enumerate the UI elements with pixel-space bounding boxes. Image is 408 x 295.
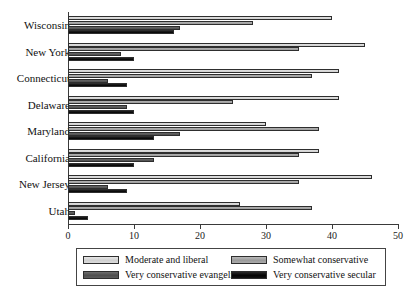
legend-swatch-icon [83, 256, 119, 264]
bar [68, 189, 127, 193]
x-axis-tick [398, 224, 399, 229]
category-label: Maryland [27, 125, 70, 137]
bar [68, 16, 332, 20]
bar [68, 149, 319, 153]
bar [68, 153, 299, 157]
bar [68, 47, 299, 51]
bar [68, 30, 174, 34]
category-label: Utah [49, 205, 70, 217]
x-axis-tick-label: 20 [195, 230, 205, 241]
bar [68, 180, 299, 184]
bar [68, 110, 134, 114]
bar [68, 21, 253, 25]
legend-label: Moderate and liberal [125, 254, 208, 265]
bar [68, 57, 134, 61]
x-axis-tick-label: 30 [261, 230, 271, 241]
bar [68, 100, 233, 104]
legend-row-2: Very conservative evangelical Very conse… [83, 267, 379, 282]
bar [68, 96, 339, 100]
legend-item-very-conservative-evangelical: Very conservative evangelical [83, 269, 231, 280]
legend-item-somewhat-conservative: Somewhat conservative [231, 254, 379, 265]
category-label: California [25, 152, 70, 164]
bar [68, 206, 312, 210]
x-axis-tick [332, 224, 333, 229]
bar [68, 122, 266, 126]
category-label: Connecticut [17, 72, 70, 84]
x-axis-tick-label: 40 [327, 230, 337, 241]
bar [68, 83, 127, 87]
category-label: New Jersey [19, 178, 70, 190]
category-label: Wisconsin [24, 19, 70, 31]
legend-item-moderate-and-liberal: Moderate and liberal [83, 254, 231, 265]
bar [68, 185, 108, 189]
bar [68, 163, 134, 167]
bar [68, 52, 121, 56]
x-axis-tick [134, 224, 135, 229]
legend-swatch-icon [231, 271, 267, 279]
x-axis-tick [266, 224, 267, 229]
bar [68, 132, 180, 136]
bar [68, 211, 75, 215]
bar [68, 175, 372, 179]
bar [68, 105, 127, 109]
legend-item-very-conservative-secular: Very conservative secular [231, 269, 379, 280]
x-axis-tick [200, 224, 201, 229]
bar [68, 79, 108, 83]
bars-plot-area [68, 12, 398, 224]
chart-legend: Moderate and liberal Somewhat conservati… [76, 248, 386, 286]
bar [68, 127, 319, 131]
bar [68, 136, 154, 140]
category-label: New York [25, 46, 70, 58]
legend-label: Very conservative secular [273, 269, 376, 280]
legend-swatch-icon [83, 271, 119, 279]
x-axis-tick [68, 224, 69, 229]
legend-label: Very conservative evangelical [125, 269, 245, 280]
bar [68, 74, 312, 78]
bar [68, 26, 180, 30]
x-axis-tick-label: 50 [393, 230, 403, 241]
legend-row-1: Moderate and liberal Somewhat conservati… [83, 252, 379, 267]
bar [68, 216, 88, 220]
x-axis-line [68, 224, 399, 225]
legend-swatch-icon [231, 256, 267, 264]
x-axis-tick-label: 10 [129, 230, 139, 241]
legend-label: Somewhat conservative [273, 254, 368, 265]
category-label: Delaware [28, 99, 70, 111]
bar [68, 43, 365, 47]
bar [68, 158, 154, 162]
x-axis-tick-label: 0 [66, 230, 71, 241]
bar [68, 69, 339, 73]
bar [68, 202, 240, 206]
chart-container: 01020304050 WisconsinNew YorkConnecticut… [0, 0, 408, 295]
